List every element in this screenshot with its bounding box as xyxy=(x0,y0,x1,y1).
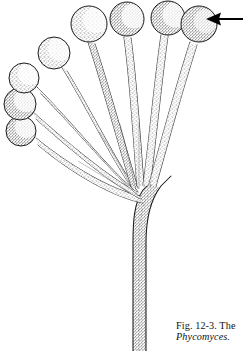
caption-line-1: Fig. 12-3. The xyxy=(176,320,247,331)
phycomyces-illustration xyxy=(0,0,247,351)
sporangium-1 xyxy=(6,116,37,146)
sporangium-3 xyxy=(9,63,40,93)
figure-page: Fig. 12-3. The Phycomyces. xyxy=(0,0,247,351)
caption-line-2: Phycomyces. xyxy=(176,331,247,342)
figure-caption: Fig. 12-3. The Phycomyces. xyxy=(176,320,247,342)
sporangium-8 xyxy=(181,6,218,42)
